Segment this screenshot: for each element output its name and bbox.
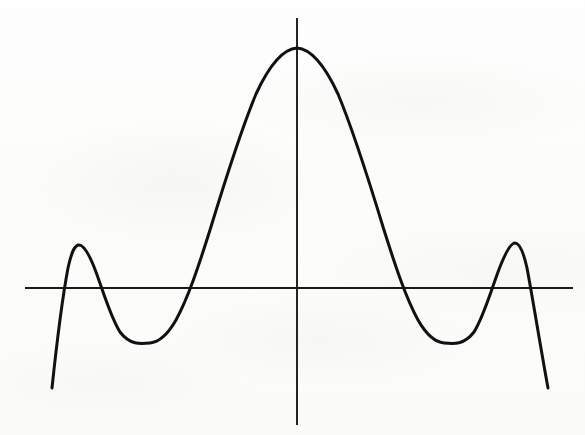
- function-curve-sinc: [52, 48, 548, 388]
- plot-canvas: [0, 0, 585, 435]
- figure-root: [0, 0, 585, 435]
